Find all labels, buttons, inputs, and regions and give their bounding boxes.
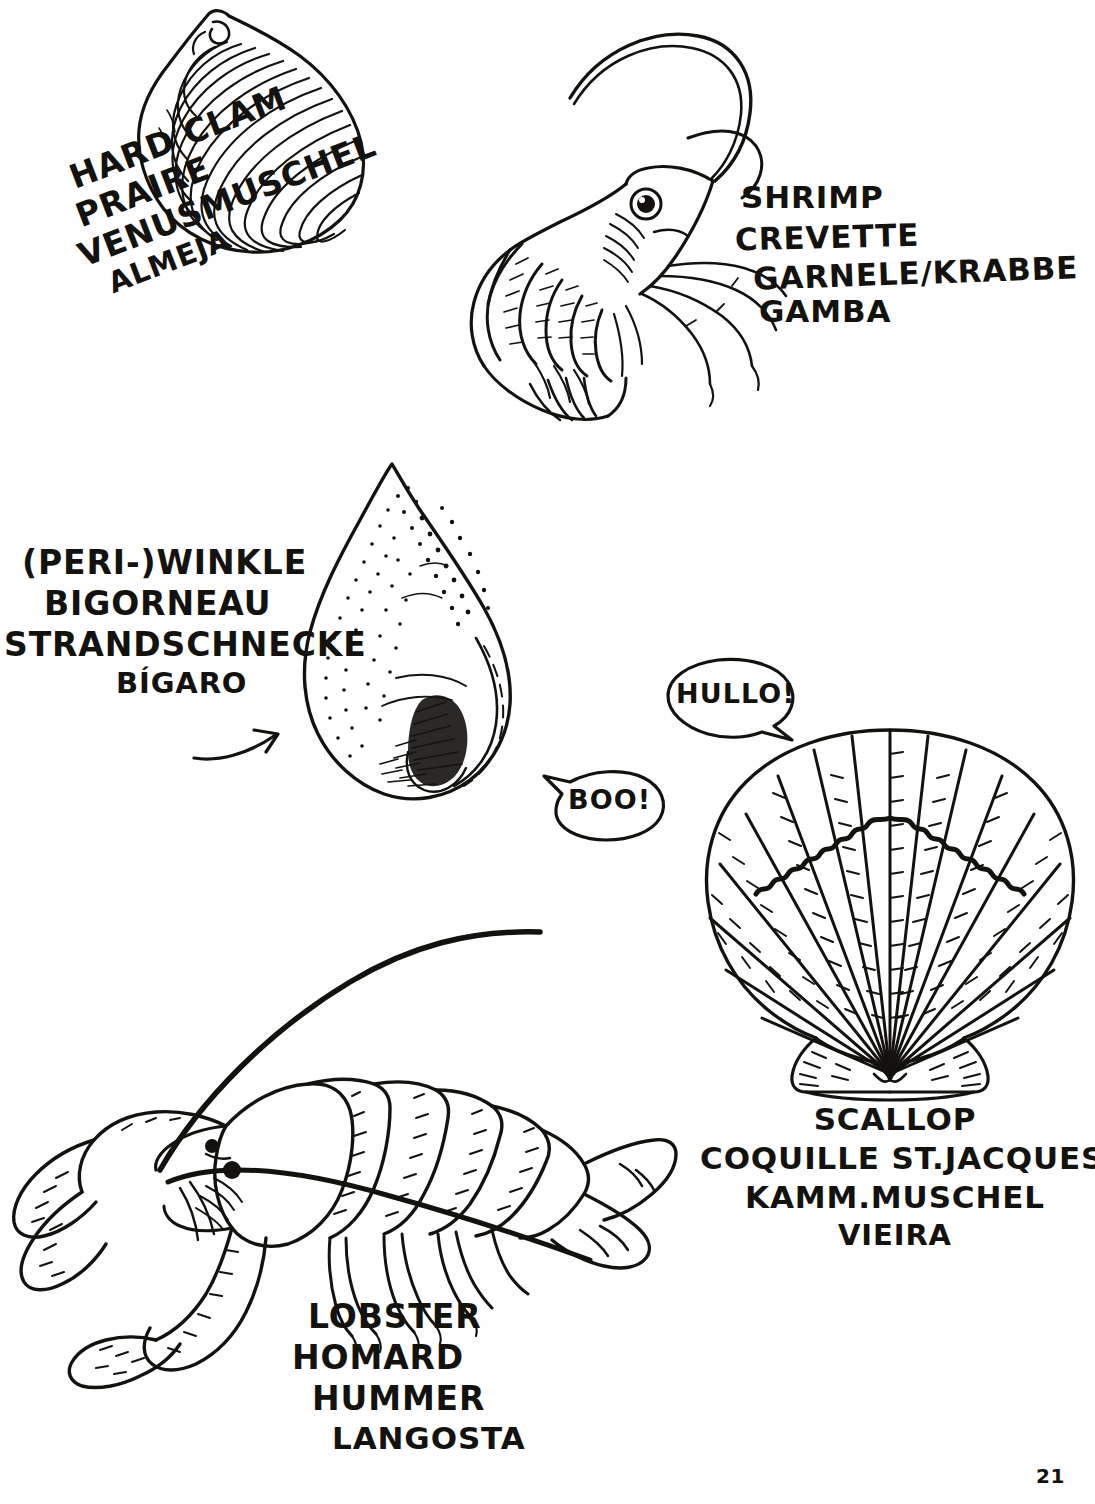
shrimp-name-french: CREVETTE: [735, 216, 1079, 256]
scallop-name-german: KAMM.MUSCHEL: [700, 1182, 1090, 1213]
speech-bubble-boo-text: BOO!: [568, 784, 651, 815]
periwinkle-name-french: BIGORNEAU: [44, 587, 367, 620]
periwinkle-name-spanish: BÍGARO: [116, 669, 367, 698]
shrimp-name-spanish: GAMBA: [759, 296, 1078, 327]
lobster-name-spanish: LANGOSTA: [332, 1423, 526, 1454]
curved-arrow-icon: [190, 722, 300, 772]
shrimp-label-block: SHRIMP CREVETTE GARNELE/KRABBE GAMBA: [735, 182, 1078, 327]
lobster-name-english: LOBSTER: [308, 1300, 526, 1333]
scallop-name-french: COQUILLE ST.JACQUES: [700, 1143, 1090, 1174]
lobster-name-french: HOMARD: [292, 1341, 526, 1374]
periwinkle-name-german: STRANDSCHNECKE: [4, 628, 367, 661]
shrimp-name-german: GARNELE/KRABBE: [753, 252, 1079, 294]
lobster-label-block: LOBSTER HOMARD HUMMER LANGOSTA: [296, 1300, 526, 1454]
page-number: 21: [1036, 1464, 1065, 1488]
shrimp-name-english: SHRIMP: [741, 182, 1078, 213]
periwinkle-label-block: (PERI-)WINKLE BIGORNEAU STRANDSCHNECKE B…: [8, 546, 367, 698]
lobster-name-german: HUMMER: [312, 1382, 526, 1415]
speech-bubble-hullo-text: HULLO!: [676, 678, 796, 709]
scallop-shell-icon: [700, 718, 1080, 1108]
periwinkle-name-english: (PERI-)WINKLE: [22, 546, 367, 579]
scallop-label-block: SCALLOP COQUILLE ST.JACQUES KAMM.MUSCHEL…: [700, 1104, 1090, 1250]
scallop-name-spanish: VIEIRA: [700, 1221, 1090, 1250]
scallop-name-english: SCALLOP: [700, 1104, 1090, 1135]
sketchbook-page: HARD CLAM PRAIRE VENUSMUSCHEL ALMEJA: [0, 0, 1095, 1504]
